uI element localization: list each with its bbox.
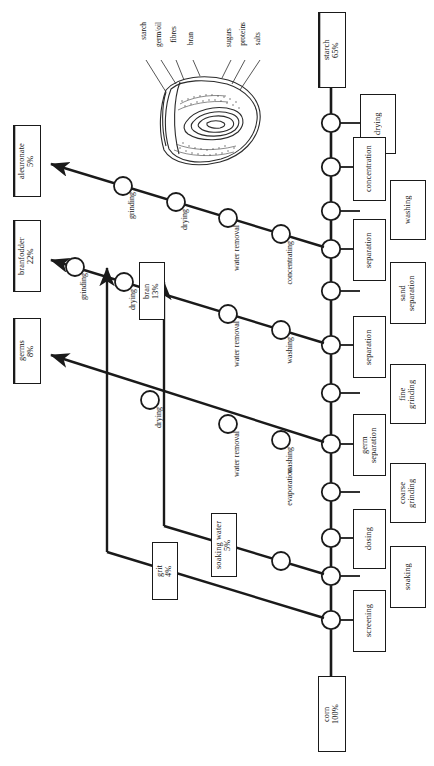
box-bran[interactable]: bran 13%	[139, 262, 165, 320]
process-box-soaking[interactable]: soaking	[390, 546, 426, 608]
box-branfodder-label: branfodder 22%	[14, 221, 40, 291]
kernel-label-germoil: germ/oil	[155, 22, 163, 47]
box-grit[interactable]: grit 4%	[152, 542, 178, 600]
box-branfodder[interactable]: branfodder 22%	[13, 220, 41, 292]
kernel-label-bran: bran	[187, 32, 195, 45]
box-germs[interactable]: germs 8%	[13, 318, 41, 384]
process-box-separation-1[interactable]: separation	[353, 219, 386, 281]
kernel-label-fibres: fibres	[170, 26, 178, 43]
process-box-washing-label: washing	[391, 181, 425, 239]
process-box-germ-separation[interactable]: germ separation	[353, 414, 386, 476]
process-box-screening-label: screening	[354, 591, 385, 651]
process-box-soaking-label: soaking	[391, 547, 425, 607]
box-corn[interactable]: corn 100%	[318, 676, 346, 752]
edge-label-branfodder-drying: drying	[129, 289, 137, 310]
box-starch-label: starch 65%	[319, 13, 345, 87]
edge-label-germs-water-removal: water removal	[233, 431, 241, 477]
process-box-dosing-label: dosing	[354, 510, 385, 568]
edge-label-evaporation: evaporation	[286, 468, 294, 506]
process-box-washing[interactable]: washing	[390, 180, 426, 240]
process-box-concentration[interactable]: concentration	[353, 137, 386, 201]
process-box-coarse-grinding-label: coarse grinding	[391, 464, 425, 522]
edge-label-aleuronate-water-removal: water removal	[233, 225, 241, 271]
box-soaking-water[interactable]: soaking water 5%	[211, 513, 237, 577]
box-starch[interactable]: starch 65%	[318, 12, 346, 88]
edge-label-germs-drying: drying	[155, 407, 163, 428]
box-bran-label: bran 13%	[140, 263, 164, 319]
process-box-separation-2-label: separation	[354, 317, 385, 377]
edge-label-branfodder-water-removal: water removal	[233, 321, 241, 367]
process-box-separation-2[interactable]: separation	[353, 316, 386, 378]
kernel-label-sugars: sugars	[225, 28, 233, 47]
box-grit-label: grit 4%	[153, 543, 177, 599]
process-box-coarse-grinding[interactable]: coarse grinding	[390, 463, 426, 523]
kernel-label-proteins: proteins	[239, 22, 247, 46]
edge-label-branfodder-washing: washing	[286, 337, 294, 364]
box-aleuronate-label: aleuronate 5%	[14, 126, 40, 196]
branch-soaking-water-nodes	[272, 552, 290, 570]
process-box-separation-1-label: separation	[354, 220, 385, 280]
branch-germs	[51, 355, 324, 442]
box-aleuronate[interactable]: aleuronate 5%	[13, 125, 41, 197]
box-corn-label: corn 100%	[319, 677, 345, 751]
branch-soaking-water	[164, 282, 324, 574]
edge-label-aleuronate-concentrating: concentrating	[286, 241, 294, 285]
kernel-label-salts: salts	[254, 32, 262, 45]
process-box-dosing[interactable]: dosing	[353, 509, 386, 569]
process-box-germ-separation-label: germ separation	[354, 415, 385, 475]
edge-label-branfodder-grinding: grinding	[80, 273, 88, 300]
process-box-screening[interactable]: screening	[353, 590, 386, 652]
edge-label-aleuronate-grinding: grinding	[128, 192, 136, 219]
process-box-fine-grinding[interactable]: fine grinding	[390, 364, 426, 424]
diagram-canvas: corn 100% starch 65% aleuronate 5% branf…	[0, 0, 434, 766]
edge-label-aleuronate-drying: drying	[181, 209, 189, 230]
process-box-sand-separation-label: sand separation	[391, 263, 425, 323]
kernel-label-starch: starch	[140, 22, 148, 40]
box-germs-label: germs 8%	[14, 319, 40, 383]
process-box-concentration-label: concentration	[354, 138, 385, 200]
process-box-fine-grinding-label: fine grinding	[391, 365, 425, 423]
process-box-sand-separation[interactable]: sand separation	[390, 262, 426, 324]
box-soaking-water-label: soaking water 5%	[212, 514, 236, 576]
